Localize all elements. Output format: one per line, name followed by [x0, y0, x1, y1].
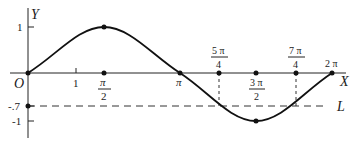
point-pi — [178, 71, 183, 76]
point-peak — [102, 25, 107, 30]
point-3pi2-axis — [254, 71, 259, 76]
line-L-label: L — [336, 99, 345, 114]
x-tick-label-pi-half-den: 2 — [101, 90, 107, 102]
x-tick-label-7pi4-num: 7 π — [289, 45, 302, 56]
x-tick-label-2pi: 2 π — [325, 58, 338, 69]
point-neg07 — [26, 104, 31, 109]
origin-label: O — [14, 76, 24, 91]
point-7pi4-axis — [294, 71, 299, 76]
x-tick-label-5pi4-num: 5 π — [212, 45, 225, 56]
x-tick-label-7pi4-den: 4 — [293, 59, 298, 70]
y-tick-label-1: 1 — [17, 21, 23, 33]
point-origin — [26, 71, 31, 76]
point-2pi — [330, 71, 335, 76]
point-5pi4-axis — [217, 71, 222, 76]
x-tick-label-3pi2-den: 2 — [254, 91, 259, 102]
point-pi-half — [102, 71, 107, 76]
y-axis-label: Y — [31, 7, 41, 22]
y-tick-label-neg1: -1 — [12, 115, 21, 127]
x-tick-label-1: 1 — [73, 77, 79, 89]
y-tick-label-neg07: -.7 — [8, 100, 20, 112]
point-trough — [254, 119, 259, 124]
x-tick-label-5pi4-den: 4 — [216, 59, 221, 70]
x-tick-label-pi: π — [176, 76, 182, 88]
x-axis-label: X — [339, 74, 349, 89]
x-tick-label-pi-half-num: π — [100, 76, 106, 88]
sine-graph: Y O X L 1 -.7 -1 1 π 2 π 5 π 4 3 π 2 7 π… — [0, 0, 363, 151]
x-tick-label-3pi2-num: 3 π — [250, 77, 263, 88]
